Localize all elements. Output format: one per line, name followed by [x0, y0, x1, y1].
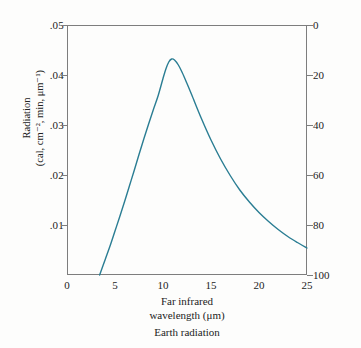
y-axis-left-tick-label: .04 — [30, 70, 64, 81]
x-axis-title-line1: Far infrared — [67, 294, 307, 308]
y-axis-right-tick-mark — [307, 175, 313, 176]
x-axis-title-line2: wavelength (μm) — [67, 308, 307, 322]
y-axis-right-tick-label: 0 — [313, 20, 319, 31]
y-axis-right-tick-label: 40 — [313, 120, 324, 131]
x-axis-tick-label: 0 — [64, 279, 70, 291]
y-axis-left-tick-mark — [61, 25, 67, 26]
y-axis-right-tick-label: 60 — [313, 170, 324, 181]
x-axis-tick-label: 5 — [112, 279, 118, 291]
y-axis-left-tick-label: .05 — [30, 20, 64, 31]
x-axis-title: Far infrared wavelength (μm) — [67, 294, 307, 322]
y-axis-right-tick-label: 20 — [313, 70, 324, 81]
x-axis-ticks: 0510152025 — [0, 279, 361, 295]
x-axis-tick-label: 20 — [254, 279, 265, 291]
y-axis-left-tick-mark — [61, 125, 67, 126]
figure-caption: Earth radiation — [67, 326, 307, 339]
y-axis-right-ticks: 020406080100 — [313, 0, 353, 348]
x-axis-tick-label: 10 — [158, 279, 169, 291]
y-axis-right-tick-mark — [307, 275, 313, 276]
x-axis-tick-label: 15 — [206, 279, 217, 291]
x-axis-tick-label: 25 — [302, 279, 313, 291]
y-axis-left-tick-label: .03 — [30, 120, 64, 131]
y-axis-left-tick-mark — [61, 75, 67, 76]
y-axis-left-tick-label: .01 — [30, 220, 64, 231]
y-axis-left-ticks: .05.04.03.02.01 — [26, 0, 64, 348]
radiation-curve — [67, 25, 307, 275]
y-axis-right-tick-mark — [307, 225, 313, 226]
y-axis-left-tick-mark — [61, 175, 67, 176]
radiation-curve-path — [100, 59, 307, 275]
y-axis-right-tick-label: 80 — [313, 220, 324, 231]
y-axis-left-tick-mark — [61, 225, 67, 226]
y-axis-left-tick-label: .02 — [30, 170, 64, 181]
y-axis-right-tick-mark — [307, 125, 313, 126]
figure-container: Radiation (cal, cm⁻², min, μm⁻¹) .05.04.… — [0, 0, 361, 348]
y-axis-right-tick-mark — [307, 75, 313, 76]
y-axis-right-tick-mark — [307, 25, 313, 26]
